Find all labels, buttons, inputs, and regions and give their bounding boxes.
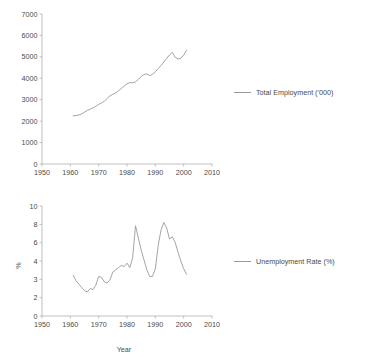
svg-text:1960: 1960 [62,320,78,329]
svg-text:6: 6 [34,238,38,247]
svg-text:3000: 3000 [22,95,38,104]
unemployment-chart: 023468101950196019701980199020002010 % Y… [0,196,365,364]
svg-text:1980: 1980 [119,320,135,329]
svg-text:1970: 1970 [91,168,107,177]
svg-text:10: 10 [30,202,38,211]
svg-text:1960: 1960 [62,168,78,177]
unemployment-legend-label: Unemployment Rate (%) [256,258,335,265]
unemployment-legend: Unemployment Rate (%) [234,258,335,265]
employment-plot-area: 0100020003000400050006000700019501960197… [0,0,230,190]
unemployment-x-axis-title: Year [94,345,154,354]
svg-text:1950: 1950 [34,168,50,177]
unemployment-legend-line-icon [234,261,251,262]
svg-text:5000: 5000 [22,52,38,61]
svg-text:1980: 1980 [119,168,135,177]
unemployment-plot-svg: 023468101950196019701980199020002010 [0,196,230,344]
employment-legend: Total Employment ('000) [234,89,333,96]
svg-text:1000: 1000 [22,138,38,147]
svg-text:2: 2 [34,293,38,302]
svg-text:1990: 1990 [147,168,163,177]
svg-text:7000: 7000 [22,10,38,19]
svg-text:2000: 2000 [176,168,192,177]
employment-plot-svg: 0100020003000400050006000700019501960197… [0,0,230,190]
employment-legend-label: Total Employment ('000) [256,89,333,96]
svg-text:8: 8 [34,220,38,229]
unemployment-y-axis-title: % [14,256,23,276]
svg-text:2000: 2000 [22,117,38,126]
svg-text:1990: 1990 [147,320,163,329]
svg-text:2000: 2000 [176,320,192,329]
svg-text:3: 3 [34,275,38,284]
svg-text:1950: 1950 [34,320,50,329]
svg-text:2010: 2010 [204,320,220,329]
unemployment-plot-area: 023468101950196019701980199020002010 [0,196,230,344]
svg-text:2010: 2010 [204,168,220,177]
svg-text:4000: 4000 [22,74,38,83]
svg-text:4: 4 [34,257,38,266]
employment-chart: 0100020003000400050006000700019501960197… [0,0,365,190]
employment-legend-line-icon [234,92,251,93]
svg-text:6000: 6000 [22,31,38,40]
svg-text:1970: 1970 [91,320,107,329]
